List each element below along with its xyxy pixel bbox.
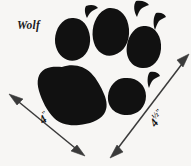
toe-pad-outer-left: [55, 18, 90, 61]
toe-pad-outer-right: [108, 78, 146, 115]
wolf-track-figure: Wolf 4" 4½": [0, 0, 191, 166]
species-label: Wolf: [17, 20, 40, 32]
